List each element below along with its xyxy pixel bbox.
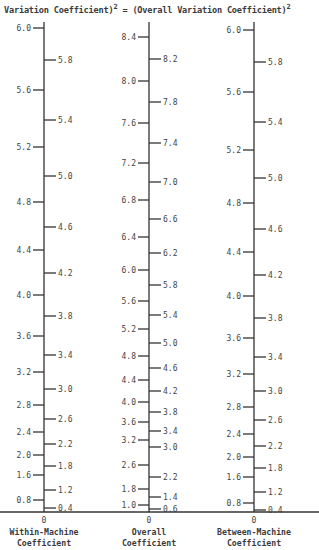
- tick-label: 0.4: [58, 504, 73, 513]
- tick-label: 3.6: [17, 332, 32, 341]
- tick-label: 5.4: [163, 311, 178, 320]
- tick-label: 2.6: [268, 416, 283, 425]
- tick-label: 3.6: [227, 334, 242, 343]
- tick-label: 4.0: [17, 291, 32, 300]
- tick-label: 3.0: [163, 443, 178, 452]
- tick-label: 0.4: [268, 506, 283, 515]
- tick-label: 5.4: [268, 118, 283, 127]
- tick-label: 2.6: [122, 461, 137, 470]
- tick-label: 3.2: [17, 368, 32, 377]
- tick-label: 2.4: [227, 430, 242, 439]
- zero-label: 0: [147, 516, 152, 525]
- tick-label: 3.0: [268, 387, 283, 396]
- tick-label: 2.0: [17, 451, 32, 460]
- tick-label: 7.0: [163, 178, 178, 187]
- tick-label: 2.8: [17, 401, 32, 410]
- tick-label: 7.8: [163, 98, 178, 107]
- nomograph-chart: 6.05.65.24.84.44.03.63.22.82.42.01.60.85…: [0, 0, 319, 550]
- tick-label: 7.6: [122, 119, 137, 128]
- tick-label: 2.8: [227, 403, 242, 412]
- axis-name-label: Coefficient: [17, 538, 71, 548]
- tick-label: 5.2: [17, 143, 32, 152]
- tick-label: 2.2: [268, 442, 283, 451]
- tick-label: 2.4: [17, 428, 32, 437]
- tick-label: 3.2: [122, 436, 137, 445]
- tick-label: 3.0: [58, 385, 73, 394]
- tick-label: 4.2: [268, 271, 283, 280]
- tick-label: 3.4: [58, 351, 73, 360]
- tick-label: 7.4: [163, 139, 178, 148]
- tick-label: 4.8: [17, 198, 32, 207]
- tick-label: 4.6: [58, 223, 73, 232]
- tick-label: 3.4: [163, 427, 178, 436]
- tick-label: 5.2: [122, 325, 137, 334]
- tick-label: 4.4: [227, 248, 242, 257]
- zero-label: 0: [252, 516, 257, 525]
- tick-label: 5.6: [17, 86, 32, 95]
- tick-label: 6.6: [163, 215, 178, 224]
- tick-label: 4.4: [122, 376, 137, 385]
- tick-label: 3.6: [122, 418, 137, 427]
- tick-label: 6.0: [17, 24, 32, 33]
- tick-label: 5.0: [268, 174, 283, 183]
- tick-label: 5.6: [227, 88, 242, 97]
- tick-label: 8.4: [122, 33, 137, 42]
- axis-name-label: Within-Machine: [9, 527, 78, 537]
- tick-label: 4.8: [227, 199, 242, 208]
- tick-label: 3.8: [163, 408, 178, 417]
- tick-label: 1.4: [163, 493, 178, 502]
- tick-label: 0.8: [17, 496, 32, 505]
- tick-label: 8.2: [163, 55, 178, 64]
- tick-label: 5.8: [58, 56, 73, 65]
- tick-label: 1.6: [17, 471, 32, 480]
- tick-label: 8.0: [122, 77, 137, 86]
- tick-label: 1.2: [58, 486, 73, 495]
- tick-label: 1.6: [227, 473, 242, 482]
- tick-label: 5.4: [58, 116, 73, 125]
- tick-label: 1.8: [122, 485, 137, 494]
- tick-label: 6.8: [122, 196, 137, 205]
- axis-name-label: Between-Machine: [217, 527, 291, 537]
- tick-label: 1.0: [122, 501, 137, 510]
- tick-label: 3.2: [227, 370, 242, 379]
- axis-name-label: Coefficient: [227, 538, 281, 548]
- tick-label: 1.8: [268, 464, 283, 473]
- tick-label: 2.6: [58, 415, 73, 424]
- tick-label: 6.2: [163, 249, 178, 258]
- tick-label: 4.6: [163, 364, 178, 373]
- tick-label: 4.2: [163, 387, 178, 396]
- tick-label: 3.8: [268, 314, 283, 323]
- tick-label: 0.8: [227, 499, 242, 508]
- tick-label: 5.8: [163, 281, 178, 290]
- tick-label: 5.0: [58, 172, 73, 181]
- tick-label: 6.0: [122, 266, 137, 275]
- tick-label: 2.2: [163, 473, 178, 482]
- tick-label: 6.4: [122, 233, 137, 242]
- axis-name-label: Coefficient: [122, 538, 176, 548]
- tick-label: 2.0: [227, 453, 242, 462]
- zero-label: 0: [42, 516, 47, 525]
- tick-label: 4.6: [268, 225, 283, 234]
- tick-label: 4.0: [227, 292, 242, 301]
- tick-label: 1.8: [58, 462, 73, 471]
- tick-label: 5.6: [122, 297, 137, 306]
- tick-label: 4.8: [122, 352, 137, 361]
- tick-label: 4.2: [58, 269, 73, 278]
- tick-label: 3.8: [58, 312, 73, 321]
- tick-label: 2.2: [58, 440, 73, 449]
- tick-label: 5.0: [163, 339, 178, 348]
- tick-label: 5.8: [268, 58, 283, 67]
- tick-label: 5.2: [227, 146, 242, 155]
- axis-name-label: Overall: [132, 527, 167, 537]
- tick-label: 3.4: [268, 353, 283, 362]
- tick-label: 4.0: [122, 398, 137, 407]
- tick-label: 0.6: [163, 505, 178, 514]
- tick-label: 7.2: [122, 159, 137, 168]
- tick-label: 1.2: [268, 488, 283, 497]
- tick-label: 6.0: [227, 26, 242, 35]
- tick-label: 4.4: [17, 246, 32, 255]
